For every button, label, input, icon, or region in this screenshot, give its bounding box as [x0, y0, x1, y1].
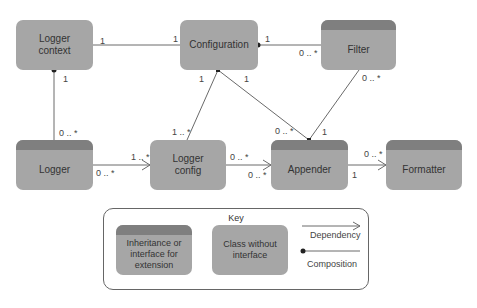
class-filter: Filter: [321, 20, 396, 70]
multiplicity: 0 .. *: [96, 168, 115, 178]
key-inheritance-box: Inheritance or interface for extension: [116, 225, 192, 275]
multiplicity: 1 .. *: [172, 127, 191, 137]
multiplicity: 0 .. *: [59, 128, 78, 138]
multiplicity: 0 .. *: [275, 126, 294, 136]
multiplicity: 1: [199, 74, 204, 84]
class-logger-context: Logger context: [16, 20, 93, 70]
multiplicity: 0 .. *: [248, 170, 267, 180]
multiplicity: 1: [322, 127, 327, 137]
multiplicity: 1: [63, 74, 68, 84]
multiplicity: 0 .. *: [364, 149, 383, 159]
multiplicity: 0 .. *: [362, 73, 381, 83]
class-configuration: Configuration: [180, 20, 258, 70]
multiplicity: 1 .. *: [131, 152, 150, 162]
class-logger-config: Logger config: [150, 140, 226, 190]
multiplicity: 1: [100, 36, 105, 46]
key-dependency-label: Dependency: [310, 230, 361, 240]
class-formatter: Formatter: [386, 140, 462, 190]
key-class-box: Class without interface: [212, 225, 288, 275]
multiplicity: 1: [173, 34, 178, 44]
class-appender: Appender: [271, 140, 348, 190]
multiplicity: 0 .. *: [230, 152, 249, 162]
class-logger: Logger: [16, 140, 93, 190]
multiplicity: 1: [352, 170, 357, 180]
multiplicity: 1: [244, 74, 249, 84]
key-symbols: [300, 219, 366, 279]
key-composition-label: Composition: [307, 259, 357, 269]
multiplicity: 0 .. *: [299, 48, 318, 58]
composition-icon: [301, 249, 306, 254]
key-legend: Key Inheritance or interface for extensi…: [103, 208, 369, 290]
multiplicity: 1: [265, 34, 270, 44]
